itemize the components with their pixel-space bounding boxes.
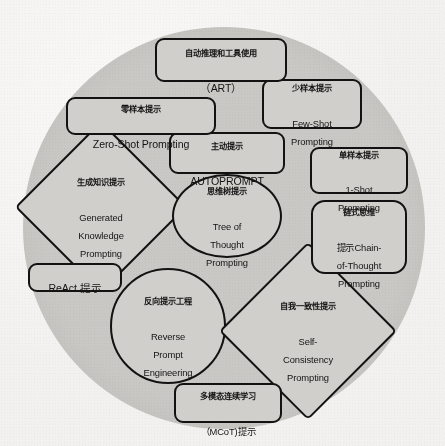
node-react-label: ReAct 提示 (47, 260, 104, 296)
node-one-shot-label: 单样本提示 1-Shot Prompting (336, 126, 382, 216)
node-zero-shot-label-en: Zero-Shot Prompting (93, 138, 189, 150)
node-few-shot-label-en: Few-Shot Prompting (291, 118, 333, 147)
node-one-shot[interactable]: 单样本提示 1-Shot Prompting (310, 147, 408, 194)
node-mcot-label-en: （MCoT)提示 (201, 426, 256, 437)
node-one-shot-label-cn: 单样本提示 (339, 151, 379, 160)
node-self-consistency-label-en: Self- Consistency Prompting (283, 336, 333, 383)
node-tree-of-thought-label-en: Tree of Thought Prompting (206, 221, 248, 268)
node-generated-knowledge-label-cn: 生成知识提示 (77, 178, 124, 187)
node-react[interactable]: ReAct 提示 (28, 263, 122, 292)
node-chain-of-thought-label-en: 提示Chain- of-Thought Prompting (337, 242, 382, 289)
node-mcot-label: 多模态连续学习 （MCoT)提示 (198, 367, 257, 439)
node-art-label: 自动推理和工具使用 （ART） (183, 24, 258, 96)
node-art[interactable]: 自动推理和工具使用 （ART） (155, 38, 287, 82)
node-self-consistency-label: 自我一致性提示 Self- Consistency Prompting (245, 277, 371, 384)
node-generated-knowledge[interactable]: 生成知识提示 Generated Knowledge Prompting (40, 146, 162, 268)
node-autoprompt-label-en: AUTOPROMPT (190, 175, 264, 187)
node-few-shot-label: 少样本提示 Few-Shot Prompting (289, 59, 335, 149)
node-zero-shot-label-cn: 零样本提示 (121, 105, 161, 114)
node-few-shot-label-cn: 少样本提示 (292, 84, 332, 93)
diagram-canvas: 自动推理和工具使用 （ART） 少样本提示 Few-Shot Prompting… (0, 0, 445, 446)
node-mcot[interactable]: 多模态连续学习 （MCoT)提示 (174, 383, 282, 423)
node-react-label-cn: ReAct 提示 (49, 282, 102, 294)
node-generated-knowledge-label-en: Generated Knowledge Prompting (78, 212, 124, 259)
node-reverse-prompt-engineering-label-cn: 反向提示工程 (144, 297, 191, 306)
node-art-label-en: （ART） (200, 82, 243, 94)
node-self-consistency-label-cn: 自我一致性提示 (280, 302, 335, 311)
node-reverse-prompt-engineering-label: 反向提示工程 Reverse Prompt Engineering (142, 272, 195, 379)
node-reverse-prompt-engineering-label-en: Reverse Prompt Engineering (144, 331, 193, 378)
node-one-shot-label-en: 1-Shot Prompting (338, 184, 380, 213)
node-autoprompt-label-cn: 主动提示 (211, 142, 243, 151)
node-zero-shot-label: 零样本提示 Zero-Shot Prompting (91, 80, 191, 152)
node-art-label-cn: 自动推理和工具使用 (185, 49, 256, 58)
node-zero-shot[interactable]: 零样本提示 Zero-Shot Prompting (66, 97, 216, 135)
node-mcot-label-cn: 多模态连续学习 (200, 392, 255, 401)
node-few-shot[interactable]: 少样本提示 Few-Shot Prompting (262, 79, 362, 129)
node-generated-knowledge-label: 生成知识提示 Generated Knowledge Prompting (40, 153, 162, 260)
